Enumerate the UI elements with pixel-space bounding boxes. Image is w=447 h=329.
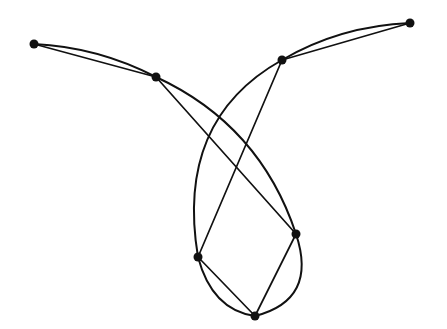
edge-n3-n4-straight [282,23,410,60]
node-n6 [194,253,203,262]
edge-n6-n7-straight [198,257,255,316]
node-n4 [406,19,415,28]
edge-n5-n7-straight [255,234,296,316]
node-n5 [292,230,301,239]
edge-layer [34,23,410,316]
node-layer [30,19,415,321]
edge-n1-n2-straight [34,44,156,77]
edge-n3-n6-straight [198,60,282,257]
edge-n2-n5-straight [156,77,296,234]
node-n2 [152,73,161,82]
node-n1 [30,40,39,49]
node-n7 [251,312,260,321]
node-n3 [278,56,287,65]
graph-diagram [0,0,447,329]
